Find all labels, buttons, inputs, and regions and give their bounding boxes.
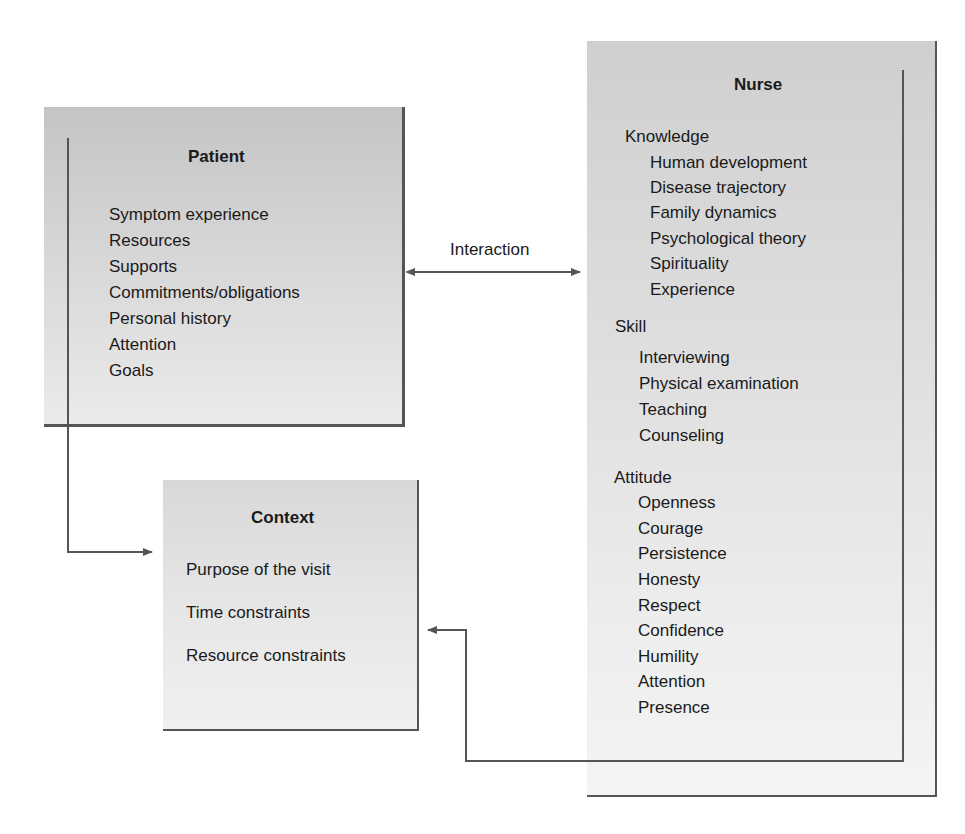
- connectors: [0, 0, 965, 834]
- patient-to-context-arrow: [68, 138, 152, 552]
- nurse-to-context-arrow: [428, 70, 903, 761]
